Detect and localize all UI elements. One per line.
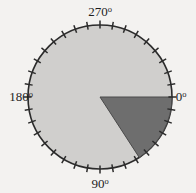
dial-canvas: 270o180o0o90o [0, 0, 196, 193]
label-270-degree-symbol: o [108, 4, 112, 14]
label-90-degree-symbol: o [104, 176, 108, 186]
label-180-degree-symbol: o [29, 89, 33, 99]
label-0-degree-symbol: o [182, 89, 186, 99]
label-90: 90o [91, 176, 108, 191]
label-0: 0o [176, 89, 187, 104]
label-270: 270o [88, 4, 112, 19]
circular-angle-diagram: 270o180o0o90o [0, 0, 196, 193]
